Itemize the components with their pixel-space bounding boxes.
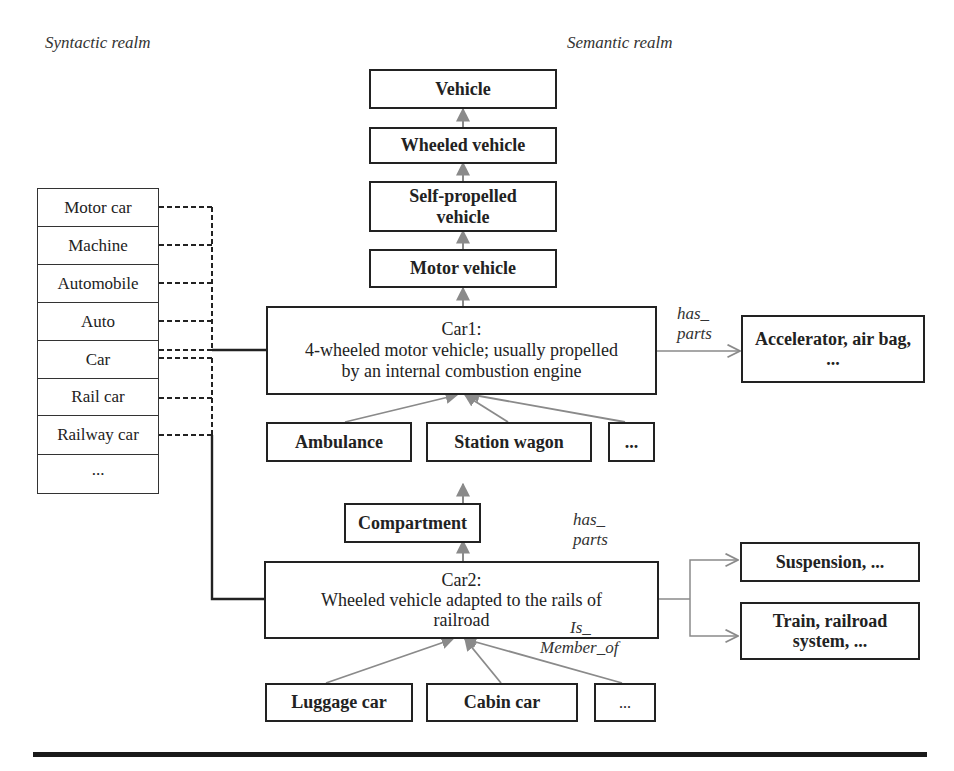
car2-has-parts-label: has_ parts bbox=[573, 510, 608, 551]
term-railway-car[interactable]: Railway car bbox=[37, 415, 159, 455]
node-cabin-car[interactable]: Cabin car bbox=[426, 683, 578, 722]
term-motor-car[interactable]: Motor car bbox=[37, 188, 159, 227]
node-car2-more[interactable]: ... bbox=[594, 683, 656, 722]
relation-label-line1: has_ bbox=[573, 510, 608, 530]
node-car2-member-of[interactable]: Train, railroad system, ... bbox=[740, 602, 920, 660]
car1-title: Car1: bbox=[442, 319, 482, 340]
node-compartment[interactable]: Compartment bbox=[344, 503, 481, 543]
car2-gloss-line2: railroad bbox=[434, 610, 490, 630]
bottom-rule-divider bbox=[33, 752, 927, 757]
node-car1-more[interactable]: ... bbox=[608, 422, 655, 462]
term-machine[interactable]: Machine bbox=[37, 226, 159, 265]
node-self-propelled-vehicle[interactable]: Self-propelled vehicle bbox=[369, 181, 557, 232]
car1-gloss-line1: 4-wheeled motor vehicle; usually propell… bbox=[305, 340, 618, 361]
synonym-links bbox=[159, 207, 212, 435]
node-station-wagon[interactable]: Station wagon bbox=[426, 422, 592, 462]
term-more[interactable]: ... bbox=[37, 454, 159, 494]
term-car[interactable]: Car bbox=[37, 340, 159, 379]
node-ambulance[interactable]: Ambulance bbox=[266, 422, 412, 462]
node-car1-parts[interactable]: Accelerator, air bag, ... bbox=[741, 315, 925, 383]
term-rail-car[interactable]: Rail car bbox=[37, 378, 159, 416]
car2-title: Car2: bbox=[442, 570, 482, 590]
car1-has-parts-label: has_ parts bbox=[677, 304, 712, 345]
relation-label-line2: parts bbox=[573, 530, 608, 550]
node-wheeled-vehicle[interactable]: Wheeled vehicle bbox=[369, 127, 557, 164]
synset-links bbox=[212, 350, 267, 599]
node-car1[interactable]: Car1: 4-wheeled motor vehicle; usually p… bbox=[266, 306, 657, 395]
relation-label-line1: has_ bbox=[677, 304, 712, 324]
car1-hyponym-arrows bbox=[345, 394, 625, 422]
node-vehicle[interactable]: Vehicle bbox=[369, 69, 557, 109]
term-automobile[interactable]: Automobile bbox=[37, 264, 159, 303]
relation-label-line1: Is_ bbox=[568, 618, 618, 638]
relation-label-line2: Member_of bbox=[540, 638, 618, 658]
car2-gloss-line1: Wheeled vehicle adapted to the rails of bbox=[321, 590, 602, 610]
car2-is-member-of-label: Is_ Member_of bbox=[568, 618, 618, 659]
car1-gloss-line2: by an internal combustion engine bbox=[342, 361, 582, 382]
term-auto[interactable]: Auto bbox=[37, 302, 159, 341]
relation-arrows bbox=[656, 351, 740, 636]
node-car2-parts[interactable]: Suspension, ... bbox=[740, 542, 920, 582]
relation-label-line2: parts bbox=[677, 324, 712, 344]
node-motor-vehicle[interactable]: Motor vehicle bbox=[369, 249, 557, 288]
node-luggage-car[interactable]: Luggage car bbox=[265, 683, 413, 722]
